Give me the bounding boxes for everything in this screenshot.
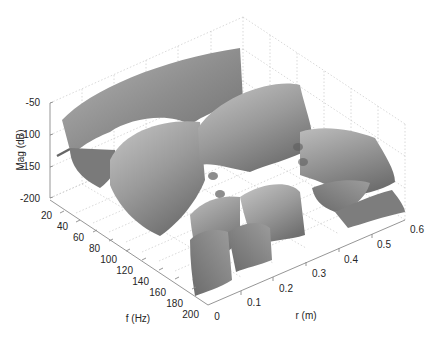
r-tick: 0.2 <box>279 283 293 294</box>
f-tick: 200 <box>182 309 199 320</box>
surface-plot-figure: -50 -100 -150 -200 Mag (dB) 20 40 60 80 … <box>0 0 433 343</box>
r-tick: 0.5 <box>377 239 391 250</box>
f-tick: 100 <box>100 254 117 265</box>
f-tick: 120 <box>116 265 133 276</box>
f-axis-label: f (Hz) <box>126 313 150 324</box>
z-axis-label: Mag (dB) <box>15 129 26 170</box>
z-tick: -50 <box>26 97 41 108</box>
r-tick: 0 <box>214 311 220 322</box>
r-tick: 0.6 <box>410 224 424 235</box>
f-tick: 180 <box>166 298 183 309</box>
f-tick: 140 <box>132 276 149 287</box>
r-tick: 0.3 <box>312 268 326 279</box>
f-tick: 160 <box>149 287 166 298</box>
z-tick: -200 <box>20 193 40 204</box>
f-tick-labels: 20 40 60 80 100 120 140 160 180 200 <box>41 210 200 320</box>
f-tick: 20 <box>41 210 53 221</box>
r-axis-label: r (m) <box>295 310 316 321</box>
f-tick: 80 <box>89 243 101 254</box>
r-tick: 0.1 <box>247 297 261 308</box>
f-tick: 60 <box>73 232 85 243</box>
r-tick: 0.4 <box>344 254 358 265</box>
f-tick: 40 <box>57 221 69 232</box>
plot-canvas: -50 -100 -150 -200 Mag (dB) 20 40 60 80 … <box>0 0 433 343</box>
